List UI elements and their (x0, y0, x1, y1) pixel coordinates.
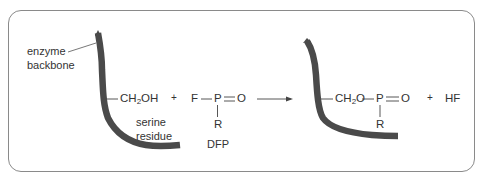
serine-label: serine (136, 116, 166, 129)
hf-byproduct: HF (445, 92, 460, 105)
backbone-label: backbone (27, 59, 75, 72)
product-r-group: R (376, 118, 384, 131)
dfp-r-group: R (214, 118, 222, 131)
product-oxygen: O (401, 92, 410, 105)
arrow-head-icon (286, 97, 293, 102)
dfp-phosphorus: P (214, 92, 222, 105)
reaction-diagram (0, 0, 486, 179)
enzyme-label: enzyme (27, 45, 66, 58)
dfp-fluorine: F (191, 92, 198, 105)
label-leader-line (68, 43, 96, 52)
product-ch2o-group: CH2O (335, 92, 365, 105)
plus-sign: + (171, 91, 177, 104)
serine-hydroxyl-group: CH2OH (120, 92, 158, 105)
product-phosphorus: P (376, 92, 384, 105)
dfp-oxygen: O (237, 92, 246, 105)
residue-label: residue (136, 130, 172, 143)
product-plus-sign: + (427, 91, 433, 104)
dfp-label: DFP (207, 138, 229, 151)
enzyme-backbone-right (307, 41, 398, 136)
